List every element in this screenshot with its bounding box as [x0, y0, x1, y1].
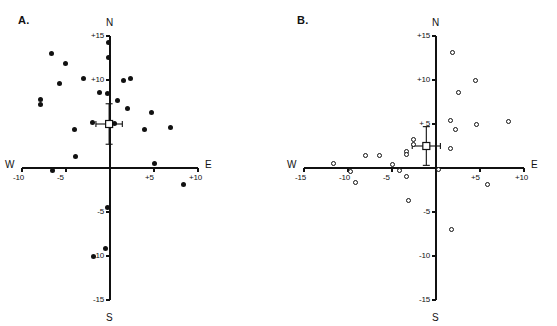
panel-a-ytick-+10: +10 [86, 75, 104, 84]
data-point [142, 127, 147, 132]
data-point [474, 122, 479, 127]
panel-b-south-label: S [432, 312, 439, 323]
panel-b-plot-area: -15-10-5+5+10+15+10+ 5-5-10-15NSWE [279, 0, 557, 326]
data-point [448, 118, 453, 123]
data-point [411, 142, 416, 147]
panel-b-xtick-+5: +5 [471, 173, 480, 182]
data-point [105, 205, 110, 210]
data-point [125, 106, 130, 111]
data-point [105, 91, 110, 96]
panel-a-north-label: N [106, 17, 113, 28]
data-point [106, 40, 111, 45]
panel-b-ytick-+10: +10 [412, 75, 430, 84]
data-point [81, 76, 86, 81]
panel-a-axes [0, 0, 278, 326]
panel-b-xtick--10: -10 [339, 173, 350, 182]
panel-a-xtick--5: -5 [57, 173, 64, 182]
data-point [404, 152, 409, 157]
scatter-figure: A. -10-5+5+10+15+10-5-10-15NSWE B. -15-1… [0, 0, 557, 326]
data-point [63, 61, 68, 66]
panel-b-ytick--5: -5 [412, 207, 430, 216]
data-point [456, 90, 461, 95]
data-point [149, 110, 154, 115]
data-point [115, 98, 120, 103]
panel-a-xtick--10: -10 [13, 173, 24, 182]
panel-a-south-label: S [106, 312, 113, 323]
panel-b-ytick-+15: +15 [412, 31, 430, 40]
panel-a-xtick-+5: +5 [145, 173, 154, 182]
panel-b-west-label: W [287, 159, 296, 170]
data-point [404, 174, 409, 179]
data-point [506, 119, 511, 124]
panel-b: B. -15-10-5+5+10+15+10+ 5-5-10-15NSWE [279, 0, 557, 326]
panel-b-ytick--15: -15 [412, 295, 430, 304]
data-point [49, 51, 54, 56]
data-point [106, 55, 111, 60]
panel-a: A. -10-5+5+10+15+10-5-10-15NSWE [0, 0, 278, 326]
panel-a-xtick-+10: +10 [189, 173, 202, 182]
data-point [112, 121, 117, 126]
panel-a-ytick--5: -5 [86, 207, 104, 216]
panel-a-ytick-+15: +15 [86, 31, 104, 40]
panel-b-axes [279, 0, 557, 326]
panel-a-ytick--15: -15 [86, 295, 104, 304]
data-point [485, 182, 490, 187]
data-point [181, 182, 186, 187]
data-point [90, 120, 95, 125]
data-point [103, 246, 108, 251]
panel-b-xtick-+10: +10 [515, 173, 528, 182]
data-point [473, 78, 478, 83]
data-point [453, 127, 458, 132]
panel-b-xtick--15: -15 [295, 173, 306, 182]
panel-b-north-label: N [432, 17, 439, 28]
panel-b-ytick--10: -10 [412, 251, 430, 260]
panel-b-xtick--5: -5 [383, 173, 390, 182]
panel-b-east-label: E [531, 159, 538, 170]
panel-a-plot-area: -10-5+5+10+15+10-5-10-15NSWE [0, 0, 278, 326]
panel-b-ytick-+ 5: + 5 [412, 119, 430, 128]
data-point [121, 78, 126, 83]
data-point [448, 146, 453, 151]
data-point [97, 90, 102, 95]
data-point [128, 76, 133, 81]
data-point [38, 97, 43, 102]
panel-a-west-label: W [5, 159, 14, 170]
mean-error-bar-marker [96, 104, 122, 144]
data-point [353, 180, 358, 185]
panel-a-east-label: E [205, 159, 212, 170]
